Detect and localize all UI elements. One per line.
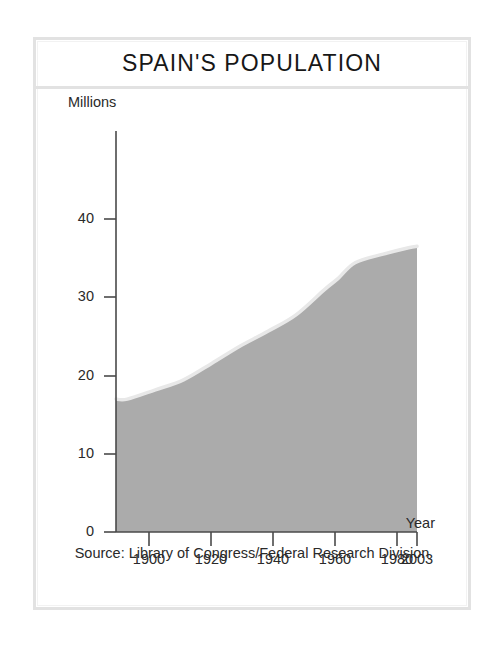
chart-figure: SPAIN'S POPULATION bbox=[33, 37, 471, 610]
y-tick-label-40: 40 bbox=[54, 210, 94, 226]
chart-series-population bbox=[116, 246, 417, 532]
source-note: Source: Library of Congress/Federal Rese… bbox=[36, 545, 468, 561]
y-tick-label-30: 30 bbox=[54, 288, 94, 304]
y-axis-title: Millions bbox=[68, 94, 116, 110]
chart-title-band: SPAIN'S POPULATION bbox=[36, 40, 468, 89]
y-tick-label-10: 10 bbox=[54, 445, 94, 461]
x-axis-title: Year bbox=[406, 515, 435, 531]
x-tick-marks bbox=[149, 532, 417, 546]
area-chart-svg bbox=[36, 89, 468, 613]
y-tick-marks bbox=[104, 219, 116, 532]
y-tick-label-20: 20 bbox=[54, 367, 94, 383]
page-title: SPAIN'S POPULATION bbox=[122, 50, 382, 77]
plot-area: Millions 0 10 20 30 40 1900 1920 1940 19… bbox=[36, 89, 468, 613]
y-tick-label-0: 0 bbox=[54, 523, 94, 539]
